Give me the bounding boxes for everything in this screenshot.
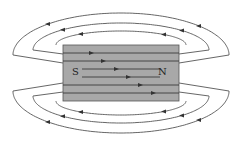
arrow-icon (60, 114, 65, 118)
field-loop-tail (13, 83, 63, 91)
arrow-icon (179, 113, 184, 117)
field-loop-top-1 (56, 31, 186, 45)
bar-magnet-diagram: S N (0, 0, 237, 145)
arrow-icon (60, 28, 65, 32)
arrow-icon (78, 32, 83, 36)
field-loop-tail (179, 83, 229, 91)
field-loop-tail (179, 92, 209, 96)
arrow-icon (196, 24, 201, 28)
field-loop-tail (33, 92, 63, 96)
arrow-icon (161, 109, 166, 113)
field-loop-tail (13, 55, 63, 63)
arrow-icon (196, 118, 201, 122)
arrow-icon (161, 33, 166, 37)
field-loop-tail (33, 50, 63, 54)
north-pole-label: N (158, 66, 167, 77)
field-loop-bottom-1 (56, 101, 186, 115)
south-pole-label: S (72, 66, 79, 77)
field-loop-tail (179, 55, 229, 63)
arrow-icon (45, 120, 50, 124)
arrow-icon (78, 110, 83, 114)
arrow-icon (45, 22, 50, 26)
arrow-icon (179, 29, 184, 33)
field-loop-tail (179, 50, 209, 54)
